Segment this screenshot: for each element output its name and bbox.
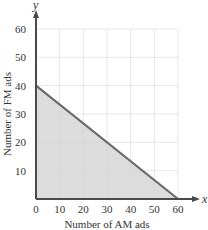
y-tick-label: 10 <box>15 165 27 177</box>
x-axis-label: Number of AM ads <box>64 218 149 230</box>
y-tick-label: 50 <box>15 51 27 63</box>
x-axis-arrow-icon <box>192 196 200 202</box>
y-tick-labels: 102030405060 <box>15 23 27 177</box>
y-axis-label: Number of FM ads <box>1 72 13 156</box>
y-axis-variable: y <box>32 0 39 12</box>
x-tick-label: 30 <box>102 203 114 215</box>
y-tick-label: 20 <box>15 136 27 148</box>
x-tick-label: 20 <box>78 203 90 215</box>
feasible-region-chart: 0102030405060 102030405060 x y Number of… <box>0 0 208 230</box>
y-tick-label: 60 <box>15 23 27 35</box>
x-tick-label: 0 <box>33 203 39 215</box>
x-tick-label: 40 <box>125 203 137 215</box>
x-tick-label: 60 <box>173 203 185 215</box>
y-tick-label: 40 <box>15 80 27 92</box>
y-tick-label: 30 <box>15 108 27 120</box>
x-tick-labels: 0102030405060 <box>33 203 184 215</box>
x-tick-label: 50 <box>149 203 161 215</box>
x-axis-variable: x <box>201 192 208 206</box>
x-tick-label: 10 <box>54 203 66 215</box>
